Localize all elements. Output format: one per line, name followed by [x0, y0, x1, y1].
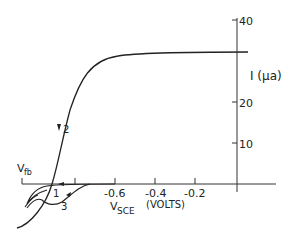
curve-2 — [17, 52, 248, 228]
arrow-2 — [57, 124, 61, 131]
x-tick-0.6: -0.6 — [104, 187, 125, 200]
curve-label-1: 1 — [53, 188, 59, 199]
y-axis-label: I (μa) — [250, 69, 282, 83]
y-tick-20: 20 — [239, 97, 253, 110]
x-tick-0.2: -0.2 — [184, 187, 205, 200]
vfb-label-sub: fb — [24, 168, 32, 177]
curve-label-2: 2 — [63, 124, 69, 135]
y-tick-40: 40 — [239, 15, 253, 28]
y-tick-10: 10 — [239, 138, 253, 151]
curve-label-3: 3 — [61, 201, 67, 212]
arrow-3 — [66, 192, 71, 197]
x-axis-label-sub: SCE — [117, 206, 135, 216]
chart: 40 20 10 I (μa) -0.6 -0.4 -0.2 V SCE (VO… — [0, 0, 296, 243]
x-axis-label-units: (VOLTS) — [146, 199, 185, 210]
